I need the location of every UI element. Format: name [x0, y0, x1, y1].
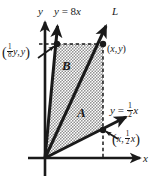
region-b-label: B	[62, 59, 71, 72]
line-L-label: L	[112, 6, 118, 17]
point-lower-right-denominator: 2	[125, 138, 131, 146]
point-upper-left-label: (18y, y)	[2, 44, 30, 59]
steep-line-var: x	[76, 5, 81, 17]
point-upper-left-dot	[54, 41, 60, 47]
point-upper-left-numerator: 1	[7, 44, 13, 51]
steep-line-label: y = 8x	[54, 6, 81, 17]
paren-open-left: (	[2, 44, 7, 60]
figure-canvas	[0, 0, 157, 181]
region-a-label: A	[77, 106, 86, 119]
point-upper-left-fraction: 18	[7, 44, 13, 59]
y-axis-label: y	[38, 6, 43, 17]
shallow-line-label: y = 12x	[110, 102, 138, 119]
shallow-line-fraction: 12	[127, 102, 133, 119]
shallow-line-numerator: 1	[127, 102, 133, 110]
point-lower-right-dot	[100, 127, 106, 133]
steep-line-equals: =	[59, 5, 71, 17]
point-lower-right-label: (x, 12x)	[112, 131, 140, 146]
point-upper-left-denominator: 8	[7, 51, 13, 59]
point-lower-right-numerator: 1	[125, 131, 131, 138]
point-upper-right-dot	[100, 41, 106, 47]
shallow-line-denominator: 2	[127, 110, 133, 119]
shallow-line-equals: =	[115, 104, 127, 116]
paren-close-low: )	[135, 131, 140, 147]
point-lower-right-fraction: 12	[125, 131, 131, 146]
math-figure: y x y = 8x L y = 12x (18y, y) (x, y) (x,…	[0, 0, 157, 181]
point-upper-right-label: (x, y)	[107, 44, 126, 54]
x-axis-label: x	[143, 153, 148, 164]
shallow-line-var: x	[133, 104, 138, 116]
paren-close-right: )	[123, 43, 126, 54]
paren-close-left: )	[25, 44, 30, 60]
